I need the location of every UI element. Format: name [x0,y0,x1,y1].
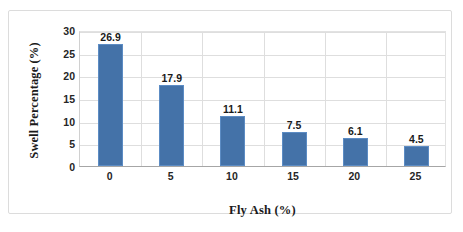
y-tick-label: 20 [47,71,75,82]
x-tick-label: 10 [207,171,257,182]
x-axis-title: Fly Ash (%) [79,203,446,218]
y-tick-label: 10 [47,116,75,127]
gridline-horizontal [80,145,445,146]
plot-area: 26.917.911.17.56.14.5 [79,31,446,167]
y-tick-label: 0 [47,162,75,173]
bar [404,146,429,166]
gridline-horizontal [80,55,445,56]
gridline-horizontal [80,77,445,78]
y-tick-label: 25 [47,48,75,59]
gridline-vertical [264,32,265,166]
gridline-horizontal [80,123,445,124]
gridline-vertical [141,32,142,166]
chart-figure: Swell Percentage (%) 051015202530 26.917… [0,0,463,232]
y-tick-label: 5 [47,139,75,150]
bar-value-label: 7.5 [269,120,319,131]
chart-frame: Swell Percentage (%) 051015202530 26.917… [8,10,452,214]
gridline-vertical [386,32,387,166]
bar [343,138,368,166]
bar-value-label: 26.9 [86,32,136,43]
bar-value-label: 11.1 [208,104,258,115]
y-axis-title: Swell Percentage (%) [23,29,45,171]
x-tick-label: 5 [146,171,196,182]
x-tick-label: 15 [268,171,318,182]
bar [282,132,307,166]
gridline-horizontal [80,100,445,101]
bar [220,116,245,166]
x-tick-label: 25 [390,171,440,182]
bar [159,85,184,166]
bar-value-label: 17.9 [147,73,197,84]
y-axis-tick-labels: 051015202530 [47,31,75,167]
x-tick-label: 20 [329,171,379,182]
bar-value-label: 4.5 [391,134,441,145]
bar [98,44,123,166]
x-tick-label: 0 [85,171,135,182]
y-axis-title-text: Swell Percentage (%) [27,42,42,158]
gridline-vertical [202,32,203,166]
x-axis-tick-labels: 0510152025 [79,171,446,187]
bar-value-label: 6.1 [330,126,380,137]
y-tick-label: 15 [47,94,75,105]
y-tick-label: 30 [47,26,75,37]
gridline-vertical [325,32,326,166]
